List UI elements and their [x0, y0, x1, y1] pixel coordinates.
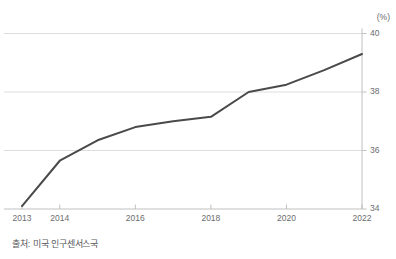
y-axis-tick-label: 34: [370, 204, 379, 213]
axes-group: [4, 29, 362, 210]
x-tick-marks-group: [22, 205, 362, 210]
y-axis-tick-label: 36: [370, 146, 379, 155]
x-axis-tick-label: 2018: [201, 214, 220, 223]
y-axis-tick-label: 38: [370, 87, 379, 96]
x-axis-tick-label: 2022: [353, 214, 372, 223]
x-axis-tick-label: 2013: [13, 214, 32, 223]
gridlines-group: [4, 34, 362, 151]
x-axis-tick-label: 2020: [277, 214, 296, 223]
data-series-group: [22, 54, 362, 206]
y-axis-tick-label: 40: [370, 29, 379, 38]
x-axis-tick-label: 2014: [50, 214, 69, 223]
source-note: 출처: 미국 인구센서스국: [12, 237, 98, 250]
y-tick-marks-group: [362, 34, 367, 210]
chart-container: (%) 40383634 201320142016201820202022 출처…: [0, 0, 396, 259]
data-line: [22, 54, 362, 206]
x-axis-tick-label: 2016: [126, 214, 145, 223]
